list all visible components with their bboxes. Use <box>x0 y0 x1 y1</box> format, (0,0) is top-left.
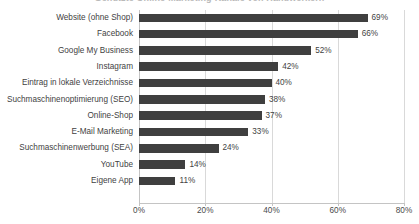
chart-title: Genutzte Online-Marketing-Kanäle von Han… <box>0 0 419 3</box>
chart-row: Eintrag in lokale Verzeichnisse40% <box>0 75 419 91</box>
chart-row: Google My Business52% <box>0 43 419 59</box>
x-tick-label: 80% <box>384 206 419 215</box>
bar-value-label: 14% <box>189 157 205 173</box>
bar <box>139 177 175 186</box>
bar <box>139 160 185 169</box>
bar-value-label: 38% <box>269 92 285 108</box>
category-label: Website (ohne Shop) <box>0 10 133 26</box>
x-tick-label: 0% <box>119 206 159 215</box>
bar <box>139 128 248 137</box>
bar <box>139 62 278 71</box>
bar <box>139 30 358 39</box>
bar <box>139 144 219 153</box>
x-tick-label: 60% <box>318 206 358 215</box>
x-tick-label: 20% <box>185 206 225 215</box>
category-label: Instagram <box>0 59 133 75</box>
x-tick-label: 40% <box>252 206 292 215</box>
bar-value-label: 37% <box>266 108 282 124</box>
chart-row: Suchmaschinenwerbung (SEA)24% <box>0 140 419 156</box>
category-label: E-Mail Marketing <box>0 124 133 140</box>
bar-value-label: 40% <box>276 75 292 91</box>
bar-chart: Genutzte Online-Marketing-Kanäle von Han… <box>0 0 419 224</box>
category-label: Eintrag in lokale Verzeichnisse <box>0 75 133 91</box>
chart-row: Online-Shop37% <box>0 108 419 124</box>
category-label: Suchmaschinenwerbung (SEA) <box>0 140 133 156</box>
bar-value-label: 66% <box>362 26 378 42</box>
category-label: Eigene App <box>0 173 133 189</box>
category-label: Google My Business <box>0 43 133 59</box>
chart-row: Website (ohne Shop)69% <box>0 10 419 26</box>
chart-row: E-Mail Marketing33% <box>0 124 419 140</box>
bar-value-label: 24% <box>223 140 239 156</box>
category-label: Online-Shop <box>0 108 133 124</box>
chart-row: Instagram42% <box>0 59 419 75</box>
bar-value-label: 42% <box>282 59 298 75</box>
bar-value-label: 11% <box>179 173 195 189</box>
bar <box>139 46 311 55</box>
bar <box>139 95 265 104</box>
bar-value-label: 33% <box>252 124 268 140</box>
bar <box>139 79 272 88</box>
category-label: Suchmaschinenoptimierung (SEO) <box>0 92 133 108</box>
chart-row: Suchmaschinenoptimierung (SEO)38% <box>0 92 419 108</box>
chart-row: YouTube14% <box>0 157 419 173</box>
category-label: YouTube <box>0 157 133 173</box>
bar <box>139 14 368 23</box>
bar-value-label: 69% <box>372 10 388 26</box>
chart-row: Eigene App11% <box>0 173 419 189</box>
category-label: Facebook <box>0 26 133 42</box>
bar <box>139 111 262 120</box>
chart-row: Facebook66% <box>0 26 419 42</box>
bar-value-label: 52% <box>315 43 331 59</box>
